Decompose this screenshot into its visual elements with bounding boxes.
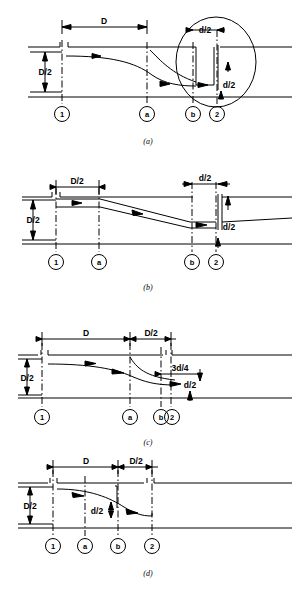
- dim-Dhalf-v-arrow-bot: [31, 231, 36, 240]
- dim-Dhalf-h-arrow-left: [50, 185, 56, 190]
- dim-Dhalf-v-arrow-bot: [28, 516, 33, 524]
- dim-dhalf-v-arrow-bot: [109, 511, 114, 518]
- panel-c: D D/2 D/2 3d/4 d/2 1 a b 2 (c): [0, 295, 297, 450]
- flow-arrow-3: [196, 223, 207, 228]
- flow-arrow-1: [72, 201, 82, 206]
- label-d-half-v: d/2: [223, 80, 236, 90]
- dim-dhalf-h-arrow-left: [184, 182, 192, 187]
- streamline-secondary: [150, 50, 196, 82]
- streamline-main: [57, 489, 152, 516]
- station-label-2: 2: [150, 542, 154, 551]
- dim-D-arrow-left: [36, 337, 42, 342]
- dim-dhalf-v-arrow: [188, 391, 193, 400]
- station-label-2: 2: [170, 413, 174, 422]
- flow-arrow-3: [198, 83, 208, 88]
- dim-D-arrow-right: [138, 25, 147, 30]
- dim-Dhalf-arrow-bot: [43, 83, 48, 92]
- panel-d: D D/2 D/2 d/2 1 a b 2 (d): [0, 450, 297, 594]
- station-label-2: 2: [214, 258, 218, 267]
- panel-caption-b: (b): [143, 283, 153, 292]
- dim-Dhalf-v-arrow-bot: [25, 387, 30, 395]
- panel-caption-d: (d): [143, 569, 153, 578]
- label-3d-quarter: 3d/4: [171, 363, 188, 373]
- dim-dhalf-h-arrow-left: [186, 28, 193, 33]
- station-label-1: 1: [60, 110, 64, 119]
- label-D-half-v: D/2: [23, 501, 37, 511]
- dim-dhalf-h-arrow-right: [218, 182, 227, 187]
- dim-Dhalf-v-arrow-top: [28, 487, 33, 495]
- station-label-a: a: [145, 110, 150, 119]
- figure-container: D D/2 d/2 d/2 1 a b 2 (a): [0, 0, 297, 594]
- flow-arrow-2: [112, 369, 124, 374]
- label-D: D: [101, 16, 107, 26]
- station-label-2: 2: [215, 110, 219, 119]
- dim-dhalf-v-arrow-top: [109, 502, 114, 510]
- station-label-1: 1: [54, 258, 58, 267]
- panel-a: D D/2 d/2 d/2 1 a b 2 (a): [0, 0, 297, 150]
- flow-arrow-1: [85, 361, 96, 366]
- label-d-half-h: d/2: [199, 173, 212, 183]
- station-lines-d: [53, 470, 152, 536]
- dim-3dq-arrow-left: [155, 372, 161, 377]
- panel-b: D/2 D/2 d/2 d/2 1 a b 2 (b): [0, 150, 297, 295]
- dim-D-arrow-left: [47, 465, 53, 470]
- label-D-half-h: D/2: [70, 176, 84, 186]
- dim-Dhalf-h-arrow-left: [130, 337, 136, 342]
- station-lines-b: [56, 182, 216, 252]
- station-label-b: b: [190, 258, 195, 267]
- streamline-secondary: [130, 357, 175, 380]
- label-D-half-v: D/2: [26, 215, 40, 225]
- dim-D-arrow-left: [62, 25, 71, 30]
- station-label-b: b: [159, 413, 164, 422]
- dim-Dhalf-v-arrow-top: [25, 359, 30, 367]
- flow-arrow-1: [72, 493, 84, 498]
- dim-dhalf-v-arrow-upper: [226, 62, 231, 70]
- dim-Dhalf-v-arrow-top: [31, 200, 36, 209]
- station-label-b: b: [116, 542, 121, 551]
- label-D-half: D/2: [38, 67, 52, 77]
- label-d-half-v: d/2: [184, 380, 197, 390]
- station-label-a: a: [97, 258, 102, 267]
- panel-caption-c: (c): [144, 438, 153, 447]
- dim-Dhalf-h-arrow-left: [118, 465, 124, 470]
- station-label-1: 1: [51, 542, 55, 551]
- dim-dhalf-v-arrow-lower: [219, 91, 224, 99]
- label-D: D: [83, 328, 89, 338]
- label-D-half-h: D/2: [144, 328, 158, 338]
- dim-Dhalf-arrow-top: [43, 52, 48, 61]
- label-D-half-h: D/2: [129, 456, 143, 466]
- station-label-b: b: [191, 110, 196, 119]
- panel-caption-a: (a): [143, 137, 153, 146]
- dim-Dhalf-h-arrow-right: [99, 185, 105, 190]
- station-label-a: a: [83, 542, 88, 551]
- flow-arrow-3: [170, 382, 181, 387]
- flow-arrow-2: [132, 210, 143, 216]
- label-d-half-h: d/2: [199, 25, 212, 35]
- label-d-half-v: d/2: [223, 222, 236, 232]
- station-label-1: 1: [40, 413, 44, 422]
- label-D: D: [83, 456, 89, 466]
- label-D-half-v: D/2: [20, 373, 34, 383]
- flow-arrow-2: [126, 509, 138, 515]
- dim-Dhalf-h-arrow-right: [165, 337, 171, 342]
- dim-Dhalf-h-arrow-right: [146, 465, 152, 470]
- label-d-half-v: d/2: [91, 506, 104, 516]
- dim-dhalf-h-arrow-right: [217, 28, 224, 33]
- dim-3dq-arrow-down: [198, 373, 203, 381]
- station-label-a: a: [128, 413, 133, 422]
